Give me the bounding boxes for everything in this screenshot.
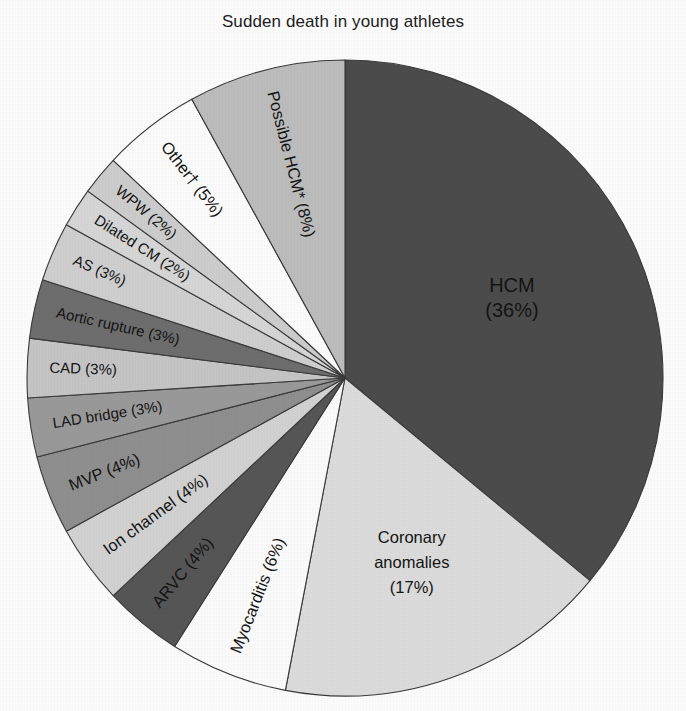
slice-label-text: (17%) xyxy=(390,578,434,596)
slice-label-text: (36%) xyxy=(485,299,538,321)
slice-label-text: HCM xyxy=(489,274,535,296)
slice-label-text: CAD (3%) xyxy=(49,359,117,378)
pie-chart-canvas: HCM(36%)Coronaryanomalies(17%)Myocarditi… xyxy=(0,0,686,711)
pie-svg: HCM(36%)Coronaryanomalies(17%)Myocarditi… xyxy=(0,0,686,711)
pie-slices-group xyxy=(27,60,663,696)
slice-label-text: anomalies xyxy=(374,553,449,571)
slice-label-text: Coronary xyxy=(378,528,447,546)
